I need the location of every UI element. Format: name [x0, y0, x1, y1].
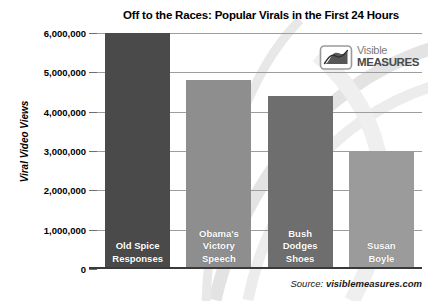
- source-label: Source:: [291, 278, 324, 289]
- y-axis-tick-label: 3,000,000: [44, 146, 86, 157]
- bar-chart-figure: Off to the Races: Popular Virals in the …: [0, 0, 428, 301]
- source-note: Source: visiblemeasures.com: [291, 278, 423, 289]
- bar[interactable]: BushDodgesShoes: [268, 96, 333, 269]
- bar[interactable]: Obama'sVictorySpeech: [186, 80, 251, 269]
- bar[interactable]: SusanBoyle: [349, 151, 414, 269]
- bar[interactable]: Old SpiceResponses: [105, 33, 170, 269]
- y-axis-tick-label: 4,000,000: [44, 106, 86, 117]
- y-axis-tick: [89, 151, 97, 152]
- plot-area: 6,000,0005,000,0004,000,0003,000,0002,00…: [97, 33, 422, 269]
- y-axis-tick: [89, 230, 97, 231]
- y-axis-tick-label: 1,000,000: [44, 224, 86, 235]
- x-axis-line: [89, 267, 422, 269]
- bar-label: SusanBoyle: [349, 240, 414, 265]
- chart-title: Off to the Races: Popular Virals in the …: [96, 8, 426, 22]
- y-axis-title: Viral Video Views: [19, 82, 30, 202]
- bar-label: BushDodgesShoes: [268, 228, 333, 266]
- bar-label: Old SpiceResponses: [105, 240, 170, 265]
- y-axis-tick-label: 5,000,000: [44, 67, 86, 78]
- y-axis-tick: [89, 33, 97, 34]
- y-axis-tick: [89, 72, 97, 73]
- y-axis-tick: [89, 112, 97, 113]
- y-axis-tick: [89, 190, 97, 191]
- y-axis-tick: [89, 269, 97, 270]
- y-axis-tick-label: 0: [81, 264, 86, 275]
- bar-label: Obama'sVictorySpeech: [186, 228, 251, 266]
- y-axis-tick-label: 6,000,000: [44, 28, 86, 39]
- source-domain: visiblemeasures.com: [326, 278, 422, 289]
- y-axis-tick-label: 2,000,000: [44, 185, 86, 196]
